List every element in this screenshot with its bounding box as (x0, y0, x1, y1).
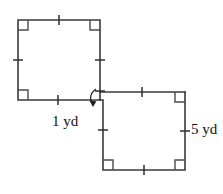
geometry-diagram: 1 yd 5 yd (0, 0, 223, 194)
label-short-side: 1 yd (52, 113, 79, 129)
label-square-side: 5 yd (191, 121, 218, 137)
lower-right-square-outline (100, 92, 185, 170)
right-angle-marks (18, 20, 185, 170)
tick-marks (13, 15, 190, 175)
arrow-head-icon (90, 101, 97, 107)
upper-left-square (18, 20, 100, 100)
geometry-figure: 1 yd 5 yd (0, 0, 223, 194)
right-angle-mark-upper-left (18, 20, 28, 30)
upper-left-square-outline (18, 20, 100, 100)
right-angle-mark-bottom-left (103, 160, 113, 170)
right-angle-mark-right-bottom (175, 160, 185, 170)
right-angle-mark-right-top (175, 92, 185, 102)
lower-right-square (100, 92, 185, 170)
right-angle-mark-lower-left (18, 90, 28, 100)
right-angle-mark-upper-right (90, 20, 100, 30)
